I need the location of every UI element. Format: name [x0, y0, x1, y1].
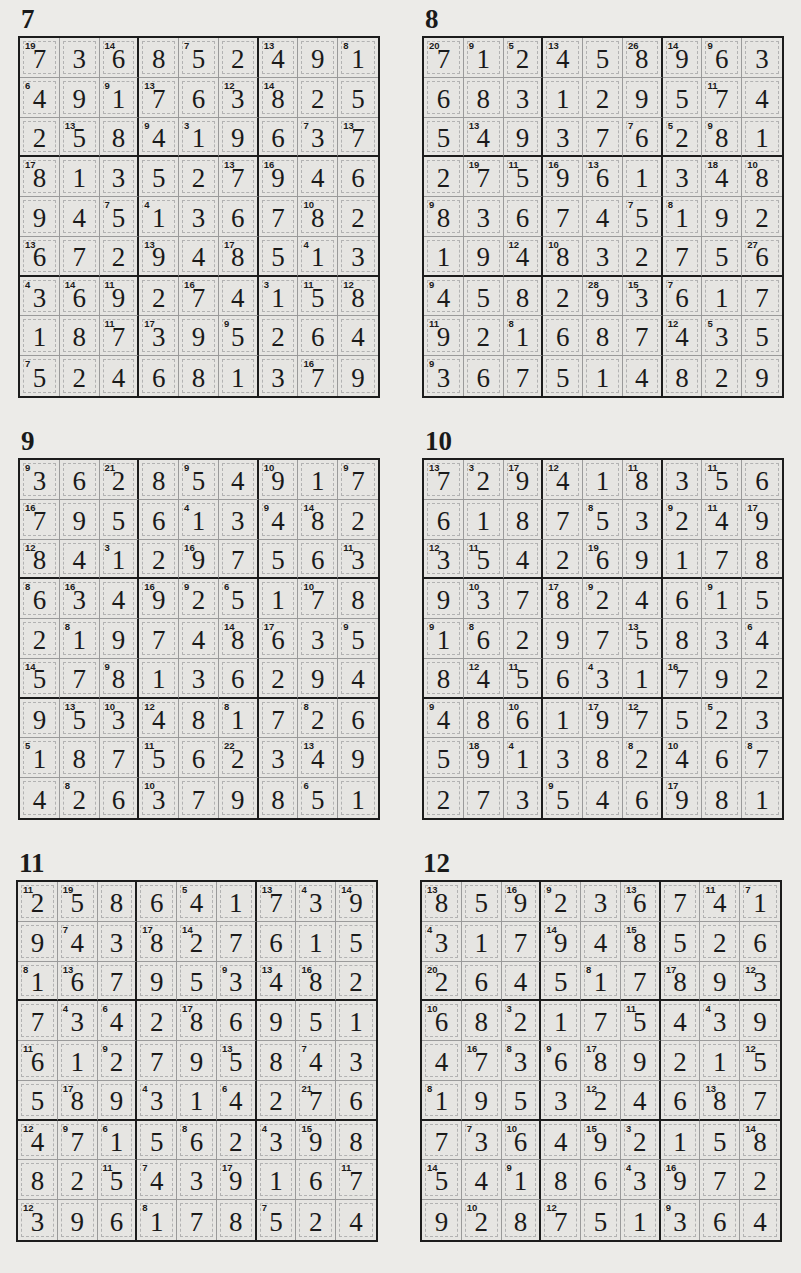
- grid-cell: 207: [424, 38, 464, 78]
- cell-digit: 6: [673, 1088, 687, 1115]
- sudoku-grid: 1385169923136711471431714941585262026458…: [420, 880, 782, 1242]
- grid-cell: 167: [20, 500, 60, 540]
- grid-cell: 6: [219, 197, 259, 237]
- grid-cell: 82: [60, 778, 100, 818]
- grid-cell: 3: [742, 38, 782, 78]
- cell-digit: 3: [150, 1088, 164, 1115]
- grid-cell: 1: [462, 922, 502, 962]
- cell-digit: 8: [516, 285, 530, 312]
- cage-sum-clue: 14: [668, 41, 679, 51]
- cage-sum-clue: 17: [747, 503, 758, 513]
- cell-digit: 1: [715, 285, 729, 312]
- cell-digit: 1: [33, 324, 47, 351]
- grid-cell: 5: [583, 38, 623, 78]
- cage-sum-clue: 9: [184, 463, 189, 473]
- cell-digit: 1: [229, 890, 243, 917]
- grid-cell: 195: [58, 882, 98, 922]
- cell-digit: 4: [514, 969, 528, 996]
- grid-cell: 6: [663, 579, 703, 619]
- grid-cell: 7: [583, 118, 623, 158]
- grid-cell: 6: [298, 540, 338, 580]
- grid-cell: 95: [543, 778, 583, 818]
- puzzle-number: 12: [420, 850, 782, 880]
- grid-cell: 289: [583, 277, 623, 317]
- cage-sum-clue: 7: [105, 200, 110, 210]
- cell-digit: 3: [229, 969, 243, 996]
- cell-digit: 1: [231, 365, 245, 392]
- cage-sum-clue: 10: [469, 582, 480, 592]
- grid-cell: 5: [137, 1121, 177, 1161]
- grid-cell: 1: [583, 356, 623, 396]
- grid-cell: 7: [663, 237, 703, 277]
- grid-cell: 115: [464, 540, 504, 580]
- cell-digit: 4: [72, 205, 86, 232]
- cell-digit: 1: [753, 890, 767, 917]
- grid-cell: 217: [296, 1081, 336, 1121]
- cage-sum-clue: 10: [303, 200, 314, 210]
- cell-digit: 6: [753, 930, 767, 957]
- grid-cell: 4: [462, 1160, 502, 1200]
- grid-cell: 9: [700, 962, 740, 1002]
- grid-cell: 179: [217, 1160, 257, 1200]
- grid-cell: 2: [179, 157, 219, 197]
- grid-cell: 7: [504, 579, 544, 619]
- grid-cell: 32: [621, 1121, 661, 1161]
- grid-cell: 7: [740, 1081, 780, 1121]
- grid-cell: 4: [583, 197, 623, 237]
- cell-digit: 1: [152, 205, 166, 232]
- grid-cell: 1: [338, 778, 378, 818]
- cell-digit: 9: [33, 707, 47, 734]
- grid-cell: 145: [20, 659, 60, 699]
- cell-digit: 9: [635, 547, 649, 574]
- cell-digit: 3: [349, 1049, 363, 1076]
- cage-sum-clue: 8: [507, 1044, 512, 1054]
- cell-digit: 9: [110, 1088, 124, 1115]
- grid-cell: 113: [338, 540, 378, 580]
- cage-sum-clue: 7: [668, 280, 673, 290]
- grid-cell: 91: [464, 38, 504, 78]
- cage-sum-clue: 12: [509, 240, 520, 250]
- grid-cell: 1: [700, 1041, 740, 1081]
- cell-digit: 4: [190, 890, 204, 917]
- cell-digit: 3: [112, 165, 126, 192]
- grid-cell: 103: [464, 579, 504, 619]
- grid-cell: 96: [702, 38, 742, 78]
- grid-cell: 123: [18, 1200, 58, 1240]
- grid-cell: 4: [100, 579, 140, 619]
- cage-sum-clue: 13: [25, 240, 36, 250]
- grid-cell: 82: [623, 738, 663, 778]
- grid-cell: 8: [464, 699, 504, 739]
- grid-cell: 7: [60, 659, 100, 699]
- cell-digit: 4: [309, 1049, 323, 1076]
- grid-cell: 4: [338, 316, 378, 356]
- cell-digit: 3: [437, 365, 451, 392]
- grid-cell: 9: [298, 659, 338, 699]
- grid-cell: 7: [623, 316, 663, 356]
- cell-digit: 6: [311, 547, 325, 574]
- cell-digit: 3: [514, 1049, 528, 1076]
- grid-cell: 8: [179, 699, 219, 739]
- grid-cell: 93: [661, 1200, 701, 1240]
- cell-digit: 7: [713, 1168, 727, 1195]
- cell-digit: 2: [349, 969, 363, 996]
- grid-cell: 115: [504, 157, 544, 197]
- cell-digit: 1: [514, 1168, 528, 1195]
- cage-sum-clue: 7: [628, 200, 633, 210]
- cell-digit: 8: [675, 365, 689, 392]
- cell-digit: 9: [713, 969, 727, 996]
- cell-digit: 3: [554, 1088, 568, 1115]
- cell-digit: 2: [596, 587, 610, 614]
- cell-digit: 5: [673, 930, 687, 957]
- cell-digit: 8: [351, 587, 365, 614]
- cage-sum-clue: 9: [264, 503, 269, 513]
- grid-cell: 5: [700, 1121, 740, 1161]
- grid-cell: 134: [464, 118, 504, 158]
- grid-cell: 91: [702, 579, 742, 619]
- grid-cell: 137: [257, 882, 297, 922]
- cell-digit: 2: [192, 165, 206, 192]
- cell-digit: 4: [437, 285, 451, 312]
- cell-digit: 5: [755, 587, 769, 614]
- cell-digit: 4: [33, 86, 47, 113]
- grid-cell: 136: [20, 237, 60, 277]
- cage-sum-clue: 13: [427, 885, 438, 895]
